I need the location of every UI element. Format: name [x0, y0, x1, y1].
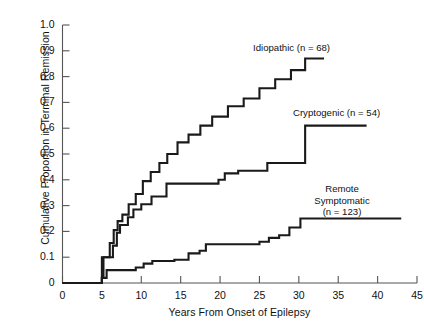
x-tick-20: 20	[205, 289, 235, 301]
y-tick-0.9: 0.9	[21, 44, 55, 56]
y-tick-0.3: 0.3	[21, 199, 55, 211]
step-curves	[63, 59, 402, 283]
y-tick-0.2: 0.2	[21, 224, 55, 236]
x-tick-25: 25	[244, 289, 274, 301]
y-tick-0.1: 0.1	[21, 250, 55, 262]
remote-label-line-3: (n = 123)	[300, 206, 384, 218]
x-tick-15: 15	[166, 289, 196, 301]
remote-label-line-1: Remote	[300, 183, 384, 195]
y-tick-0.4: 0.4	[21, 173, 55, 185]
x-axis-title: Years From Onset of Epilepsy	[62, 306, 417, 318]
series-label-idiopathic: Idiopathic (n = 68)	[253, 42, 330, 54]
series-label-cryptogenic: Cryptogenic (n = 54)	[293, 107, 380, 119]
x-tick-40: 40	[363, 289, 393, 301]
x-tick-30: 30	[284, 289, 314, 301]
remote-label-line-2: Symptomatic	[300, 195, 384, 207]
survival-chart: Cumulative Proportion in Terminal Remiss…	[0, 0, 424, 329]
curve-idiopathic	[63, 59, 325, 283]
plot-area	[0, 0, 424, 329]
y-tick-0.5: 0.5	[21, 147, 55, 159]
series-label-remote-symptomatic: Remote Symptomatic (n = 123)	[300, 183, 384, 218]
x-tick-35: 35	[323, 289, 353, 301]
y-tick-1.0: 1.0	[21, 18, 55, 30]
y-tick-0: 0	[21, 276, 55, 288]
y-tick-0.6: 0.6	[21, 121, 55, 133]
x-tick-5: 5	[87, 289, 117, 301]
x-tick-0: 0	[48, 289, 78, 301]
x-tick-10: 10	[126, 289, 156, 301]
y-tick-0.7: 0.7	[21, 95, 55, 107]
x-tick-45: 45	[402, 289, 424, 301]
y-tick-0.8: 0.8	[21, 70, 55, 82]
